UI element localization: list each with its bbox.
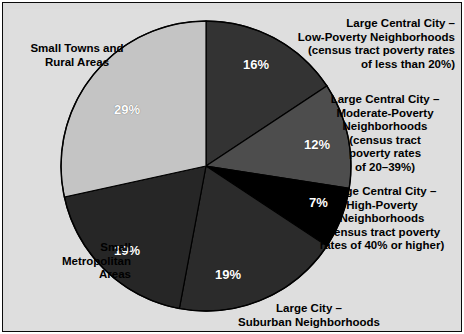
callout-small-metro: Small Metropolitan Areas xyxy=(13,241,131,282)
slice-percent-suburban: 19% xyxy=(215,267,241,282)
callout-low-poverty: Large Central City – Low-Poverty Neighbo… xyxy=(259,17,455,71)
callout-small-towns-rural: Small Towns and Rural Areas xyxy=(15,42,139,69)
callout-high-poverty: Large Central City – High-Poverty Neighb… xyxy=(309,185,455,253)
figure-container: 16% 12% 7% 19% 19% 29% Large Central Cit… xyxy=(0,0,464,334)
slice-percent-small-towns-rural: 29% xyxy=(114,102,140,117)
callout-suburban: Large City – Suburban Neighborhoods xyxy=(209,302,409,329)
chart-panel: 16% 12% 7% 19% 19% 29% Large Central Cit… xyxy=(9,9,461,331)
figure-outer-frame: 16% 12% 7% 19% 19% 29% Large Central Cit… xyxy=(2,2,462,332)
callout-moderate-poverty: Large Central City – Moderate-Poverty Ne… xyxy=(315,93,455,175)
